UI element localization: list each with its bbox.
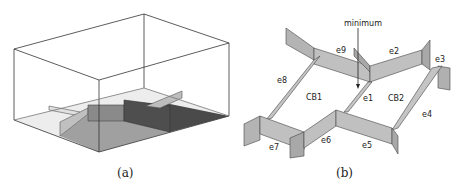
cell-label-cb1: CB1	[306, 93, 322, 102]
edge-label-e9: e9	[336, 46, 346, 55]
cell-label-cb2: CB2	[388, 94, 404, 103]
edge-label-e4: e4	[422, 110, 432, 119]
edge-label-e6: e6	[321, 136, 331, 145]
edge-label-e1: e1	[363, 94, 373, 103]
caption-a: (a)	[117, 166, 134, 180]
panel-b: minimum e1 e2 e3 e4 e5 e6 e7 e8 e9 CB1 C…	[232, 0, 464, 192]
edge-label-e5: e5	[362, 141, 372, 150]
caption-b: (b)	[336, 166, 353, 180]
box-diagram	[0, 0, 232, 192]
edge-label-e3: e3	[435, 55, 445, 64]
edge-label-e2: e2	[389, 47, 399, 56]
edge-label-e7: e7	[269, 143, 279, 152]
panel-a: (a)	[0, 0, 232, 192]
edge-label-e8: e8	[277, 76, 287, 85]
minimum-label: minimum	[344, 19, 382, 28]
edge-network-diagram: minimum e1 e2 e3 e4 e5 e6 e7 e8 e9 CB1 C…	[232, 0, 464, 192]
